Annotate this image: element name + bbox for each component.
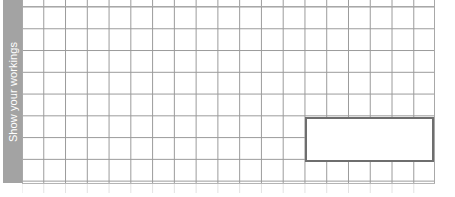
grid-border-top — [22, 6, 435, 7]
grid-border-right — [434, 0, 435, 184]
show-your-workings-sidebar: Show your workings — [3, 0, 22, 183]
worksheet-page: Show your workings — [0, 0, 455, 197]
grid-border-left — [22, 0, 23, 184]
sidebar-label: Show your workings — [7, 41, 19, 141]
grid-margin-bottom — [22, 184, 435, 193]
answer-box[interactable] — [305, 117, 434, 162]
